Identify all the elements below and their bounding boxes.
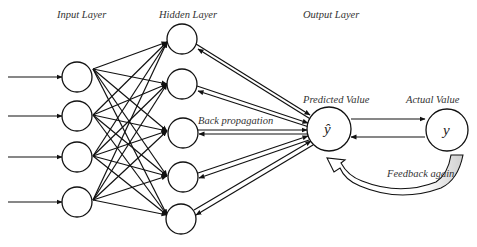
- input-arrows: [8, 77, 62, 202]
- input-node: [62, 187, 92, 217]
- input-node: [62, 62, 92, 92]
- actual-symbol: y: [441, 122, 450, 138]
- predicted-symbol: ŷ: [322, 121, 331, 137]
- back-propagation-label: Back propagation: [198, 115, 273, 126]
- output-actual-connections: [351, 119, 425, 137]
- hidden-node: [168, 162, 198, 192]
- input-layer-nodes: [62, 62, 92, 217]
- feedback-again-label: Feedback again: [386, 168, 454, 179]
- hidden-layer-title: Hidden Layer: [158, 9, 218, 20]
- input-hidden-connections: [93, 42, 167, 215]
- neural-network-diagram: Input Layer Hidden Layer Output Layer: [0, 0, 477, 247]
- input-layer-title: Input Layer: [56, 9, 107, 20]
- input-node: [62, 101, 92, 131]
- hidden-layer-nodes: [166, 24, 198, 234]
- hidden-output-connections: [194, 44, 313, 215]
- input-node: [62, 142, 92, 172]
- hidden-node: [168, 118, 198, 148]
- hidden-node: [166, 204, 196, 234]
- predicted-value-label: Predicted Value: [302, 94, 370, 105]
- output-layer-title: Output Layer: [303, 9, 360, 20]
- hidden-node: [167, 69, 197, 99]
- actual-value-label: Actual Value: [405, 94, 460, 105]
- hidden-node: [167, 24, 197, 54]
